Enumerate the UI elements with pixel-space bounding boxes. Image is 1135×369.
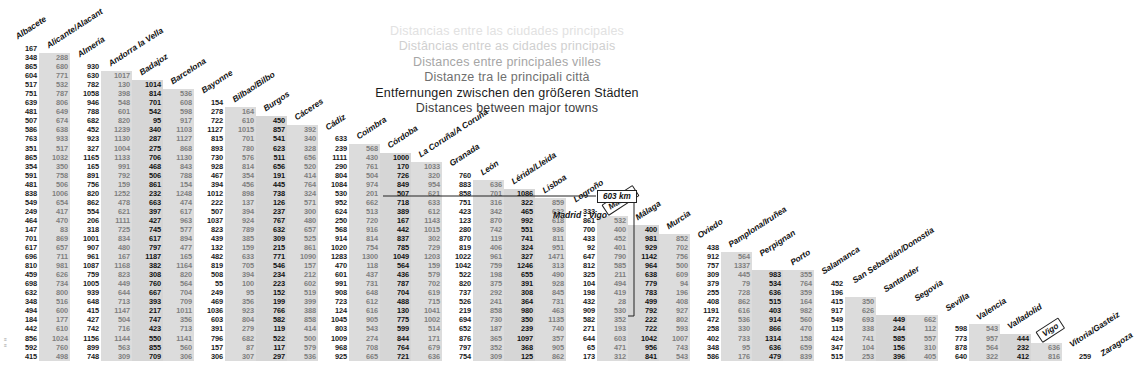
distance-cell: 119 xyxy=(473,234,504,243)
distance-cell: 164 xyxy=(783,297,814,306)
distance-cell: 632 xyxy=(8,288,39,297)
distance-cell: 630 xyxy=(70,71,101,80)
distance-cell: 914 xyxy=(752,315,783,324)
distance-cell: 280 xyxy=(442,225,473,234)
distance-cell: 427 xyxy=(132,216,163,225)
distance-cell: 206 xyxy=(70,216,101,225)
table-row: 7517871058398814536 xyxy=(8,89,1093,98)
distance-cell: 507 xyxy=(194,207,225,216)
distance-cell: 536 xyxy=(721,315,752,324)
distance-cell: 348 xyxy=(8,297,39,306)
distance-cell: 951 xyxy=(535,243,566,252)
distance-cell: 95 xyxy=(132,116,163,125)
distance-table: 1673482888656809306047716301017517532782… xyxy=(0,44,1093,361)
distance-cell: 391 xyxy=(194,324,225,333)
distance-cell: 1086 xyxy=(504,189,535,198)
distance-cell: 320 xyxy=(411,171,442,180)
distance-cell: 803 xyxy=(318,324,349,333)
distance-cell: 1156 xyxy=(70,334,101,343)
distance-cell: 119 xyxy=(256,324,287,333)
distance-cell: 506 xyxy=(132,171,163,180)
distance-cell: 858 xyxy=(442,189,473,198)
distance-cell: 100 xyxy=(225,279,256,288)
table-row: 4596267598233088205083942342126014374365… xyxy=(8,270,1093,279)
distance-cell: 823 xyxy=(194,225,225,234)
distance-cell: 549 xyxy=(8,198,39,207)
distance-cell: 530 xyxy=(318,189,349,198)
distance-cell: 610 xyxy=(39,324,70,333)
distance-cell: 814 xyxy=(349,234,380,243)
distance-cell: 914 xyxy=(318,234,349,243)
distance-cell: 159 xyxy=(101,180,132,189)
distance-cell: 893 xyxy=(194,144,225,153)
distance-cell: 649 xyxy=(39,107,70,116)
distance-cell: 764 xyxy=(783,279,814,288)
distance-cell: 633 xyxy=(225,252,256,261)
distance-cell: 394 xyxy=(225,207,256,216)
distance-cell: 600 xyxy=(39,306,70,315)
distance-cell: 968 xyxy=(318,343,349,352)
distance-cell: 792 xyxy=(101,171,132,180)
distance-cell: 899 xyxy=(70,343,101,352)
distance-cell: 201 xyxy=(349,189,380,198)
distance-cell: 517 xyxy=(8,80,39,89)
distance-cell: 402 xyxy=(690,334,721,343)
distance-cell: 737 xyxy=(442,288,473,297)
distance-cell: 612 xyxy=(411,207,442,216)
distance-cell: 745 xyxy=(132,225,163,234)
distance-cell: 1300 xyxy=(349,252,380,261)
distance-cell: 397 xyxy=(132,207,163,216)
distance-cell: 278 xyxy=(194,107,225,116)
distance-cell: 636 xyxy=(473,180,504,189)
distance-cell: 819 xyxy=(194,261,225,270)
distance-cell: 357 xyxy=(535,334,566,343)
distance-cell: 439 xyxy=(194,234,225,243)
distance-cell: 347 xyxy=(814,343,845,352)
distance-cell: 459 xyxy=(8,270,39,279)
distance-cell: 876 xyxy=(442,334,473,343)
distance-cell: 682 xyxy=(225,334,256,343)
distance-cell: 211 xyxy=(597,270,628,279)
distance-cell: 648 xyxy=(70,297,101,306)
distance-cell: 838 xyxy=(8,189,39,198)
distance-cell: 1009 xyxy=(318,334,349,343)
distance-cell: 862 xyxy=(535,352,566,361)
distance-cell: 706 xyxy=(132,153,163,162)
distance-cell: 764 xyxy=(380,343,411,352)
distance-cell: 1001 xyxy=(70,234,101,243)
distance-cell: 702 xyxy=(411,279,442,288)
distance-cell: 905 xyxy=(349,315,380,324)
distance-cell: 308 xyxy=(132,270,163,279)
distance-cell: 616 xyxy=(721,306,752,315)
distance-cell: 1133 xyxy=(101,153,132,162)
distance-cell: 1000 xyxy=(380,153,411,162)
distance-cell: 159 xyxy=(411,261,442,270)
distance-cell: 586 xyxy=(8,125,39,134)
distance-cell: 865 xyxy=(8,153,39,162)
table-row: 1841774275047473566038045828581045905775… xyxy=(8,315,1093,324)
distance-cell: 810 xyxy=(8,261,39,270)
distance-cell: 820 xyxy=(442,279,473,288)
distance-cell: 789 xyxy=(225,225,256,234)
distance-cell: 354 xyxy=(8,162,39,171)
distance-cell: 785 xyxy=(380,243,411,252)
distance-cell: 522 xyxy=(442,270,473,279)
distance-cell: 1130 xyxy=(163,153,194,162)
distance-cell: 657 xyxy=(39,243,70,252)
distance-cell: 222 xyxy=(194,198,225,207)
distance-cell: 173 xyxy=(566,352,597,361)
distance-cell: 259 xyxy=(1062,352,1093,361)
distance-cell: 621 xyxy=(101,207,132,216)
distance-cell: 504 xyxy=(349,171,380,180)
distance-cell: 964 xyxy=(628,261,659,270)
distance-cell: 393 xyxy=(132,297,163,306)
distance-cell: 1111 xyxy=(318,153,349,162)
distance-cell: 83 xyxy=(39,225,70,234)
distance-cell: 698 xyxy=(8,279,39,288)
distance-cell: 212 xyxy=(287,270,318,279)
distance-cell: 156 xyxy=(876,343,907,352)
distance-cell: 905 xyxy=(535,343,566,352)
distance-cell: 663 xyxy=(132,198,163,207)
distance-cell: 610 xyxy=(225,116,256,125)
distance-cell: 1058 xyxy=(70,89,101,98)
